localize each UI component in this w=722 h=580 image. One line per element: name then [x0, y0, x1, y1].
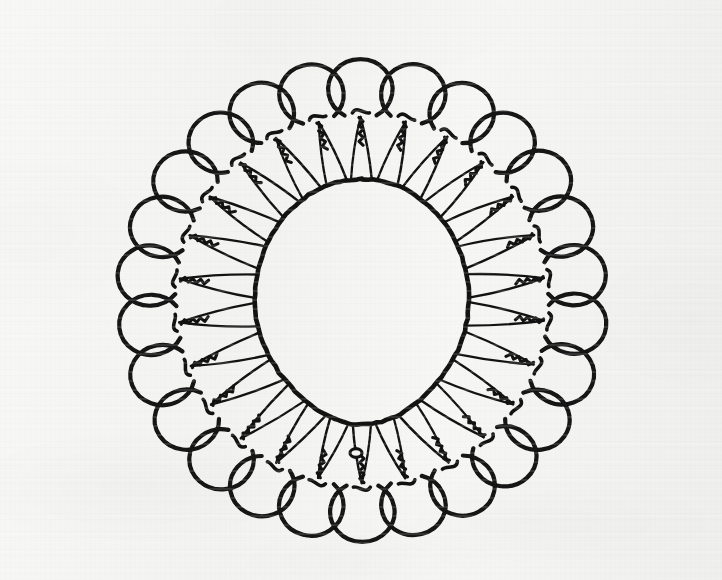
petal-head-loop [505, 390, 569, 450]
petal-scroll [184, 359, 190, 375]
petal-stem [241, 163, 300, 202]
petal-stem [469, 302, 544, 321]
petal-05[interactable] [189, 113, 300, 218]
petal-06[interactable] [230, 83, 322, 199]
petal-scroll [182, 226, 190, 242]
petal-17[interactable] [440, 360, 570, 450]
petal-scroll [534, 358, 542, 374]
petal-scroll [174, 314, 178, 331]
petal-scroll [309, 480, 326, 486]
artboard: Radial Loop Mandala A hand drawn ink ros… [0, 0, 722, 580]
central-ring-layer [255, 179, 470, 458]
petal-head-loop [155, 390, 219, 450]
petal-twist [397, 451, 408, 477]
petal-stem [421, 137, 448, 199]
petal-stem [398, 415, 448, 463]
petal-scroll [309, 116, 326, 120]
petal-10[interactable] [402, 83, 494, 199]
petal-scroll [173, 270, 178, 287]
petal-scroll [398, 114, 415, 120]
petal-scroll [534, 226, 540, 242]
petal-18[interactable] [420, 383, 537, 486]
petal-scroll [512, 187, 522, 201]
petal-stem [276, 138, 322, 188]
ink-drawing: Radial Loop Mandala A hand drawn ink ros… [0, 0, 722, 580]
petal-stem [440, 380, 514, 405]
petal-stem [420, 400, 484, 437]
petal-scroll [203, 399, 213, 413]
petal-scroll [547, 313, 552, 330]
petal-scroll [352, 110, 369, 113]
petal-head-loop [153, 151, 217, 211]
petal-layer [118, 59, 607, 542]
petal-stem [361, 117, 372, 180]
petal-scroll [353, 487, 370, 490]
petal-twist [277, 436, 290, 463]
bottom-knot [350, 449, 362, 458]
petal-stem [179, 322, 258, 326]
petal-scroll [267, 131, 282, 139]
petal-scroll [547, 270, 551, 287]
petal-scroll [442, 461, 457, 469]
petal-stem [467, 274, 544, 278]
petal-scroll [398, 480, 415, 484]
petal-stem [241, 401, 305, 439]
